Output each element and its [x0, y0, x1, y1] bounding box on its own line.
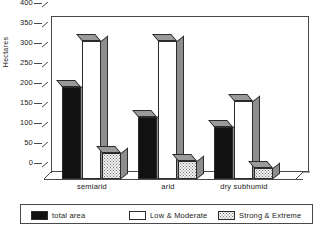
bar-front-face: [158, 41, 177, 179]
bar-side-face: [121, 148, 128, 179]
bar-arid-strong-extreme: [178, 161, 197, 179]
bar-top-face: [152, 34, 177, 41]
y-tick-350: 350: [0, 18, 44, 28]
y-tick-label: 350: [20, 18, 33, 28]
bar-side-face: [197, 156, 204, 179]
chart-legend: total area Low & Moderate Strong & Extre…: [20, 204, 313, 224]
x-axis-labels: semiaridariddry subhumid: [44, 182, 310, 196]
legend-label-total-area: total area: [52, 211, 85, 220]
bar-side-face: [273, 162, 280, 179]
y-tick-label: 400: [20, 0, 33, 8]
y-tick-label: 100: [20, 118, 33, 128]
y-tick-200: 200: [0, 78, 44, 88]
x-label-arid: arid: [126, 182, 210, 191]
bar-dry-subhumid-total-area: [214, 127, 233, 179]
y-tick-mark-depth: [42, 0, 49, 4]
bar-arid-total-area: [138, 117, 157, 179]
y-tick-label: 250: [20, 58, 33, 68]
y-tick-mark: [34, 163, 42, 164]
y-axis: Hectares 400350300250200150100500: [0, 0, 44, 182]
bar-top-face: [56, 80, 81, 87]
legend-swatch-low-moderate: [129, 211, 146, 220]
y-tick-mark: [34, 143, 42, 144]
y-tick-mark: [34, 3, 42, 4]
y-tick-label: 150: [20, 98, 33, 108]
y-tick-label: 200: [20, 78, 33, 88]
bar-top-face: [76, 34, 101, 41]
legend-item-low-moderate: Low & Moderate: [129, 209, 207, 221]
y-tick-mark: [34, 103, 42, 104]
bar-arid-low-moderate: [158, 41, 177, 179]
x-label-dry-subhumid: dry subhumid: [202, 182, 286, 191]
y-tick-label: 50: [24, 138, 33, 148]
x-label-semiarid: semiarid: [50, 182, 134, 191]
legend-label-low-moderate: Low & Moderate: [150, 211, 207, 220]
y-tick-300: 300: [0, 38, 44, 48]
y-tick-mark: [34, 123, 42, 124]
bar-front-face: [214, 127, 233, 179]
legend-item-strong-extreme: Strong & Extreme: [218, 209, 301, 221]
bar-front-face: [102, 153, 121, 179]
bar-front-face: [62, 87, 81, 179]
bar-dry-subhumid-low-moderate: [234, 101, 253, 179]
bar-top-face: [132, 110, 157, 117]
y-tick-mark: [34, 23, 42, 24]
legend-label-strong-extreme: Strong & Extreme: [239, 211, 301, 220]
legend-swatch-total-area: [31, 211, 48, 220]
legend-item-total-area: total area: [31, 209, 85, 221]
bar-front-face: [178, 161, 197, 179]
y-tick-150: 150: [0, 98, 44, 108]
y-tick-mark: [34, 83, 42, 84]
bars-container: [44, 16, 310, 186]
bar-top-face: [208, 120, 233, 127]
y-tick-label: 0: [29, 158, 33, 168]
y-tick-mark: [34, 43, 42, 44]
y-tick-0: 0: [0, 158, 44, 168]
y-tick-100: 100: [0, 118, 44, 128]
legend-swatch-strong-extreme: [218, 211, 235, 220]
bar-front-face: [138, 117, 157, 179]
bar-dry-subhumid-strong-extreme: [254, 168, 273, 179]
y-tick-50: 50: [0, 138, 44, 148]
bar-front-face: [234, 101, 253, 179]
bar-semiarid-strong-extreme: [102, 153, 121, 179]
y-tick-mark: [34, 63, 42, 64]
bar-chart: Hectares 400350300250200150100500 semiar…: [0, 0, 329, 236]
bar-front-face: [82, 41, 101, 179]
y-tick-label: 300: [20, 38, 33, 48]
bar-front-face: [254, 168, 273, 179]
y-tick-400: 400: [0, 0, 44, 8]
bar-semiarid-low-moderate: [82, 41, 101, 179]
y-axis-title: Hectares: [2, 22, 9, 82]
bar-top-face: [228, 94, 253, 101]
bar-semiarid-total-area: [62, 87, 81, 179]
y-tick-250: 250: [0, 58, 44, 68]
